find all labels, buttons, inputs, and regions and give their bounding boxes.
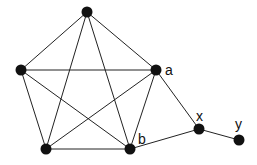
edge-x-y xyxy=(199,129,239,140)
edge-top-a xyxy=(87,12,156,70)
node-a xyxy=(151,65,162,76)
node-bottom-left xyxy=(41,144,52,155)
edge-top-b xyxy=(87,12,130,149)
graph-diagram: a b x y xyxy=(0,0,257,165)
node-b xyxy=(125,144,136,155)
node-top xyxy=(82,7,93,18)
edge-left-bottom-left xyxy=(21,70,46,149)
edge-a-x xyxy=(156,70,199,129)
edges xyxy=(21,12,239,149)
label-a: a xyxy=(165,62,173,78)
label-b: b xyxy=(138,131,146,147)
node-y xyxy=(234,135,245,146)
edge-top-bottom-left xyxy=(46,12,87,149)
node-left xyxy=(16,65,27,76)
edge-left-b xyxy=(21,70,130,149)
label-x: x xyxy=(196,108,203,124)
label-y: y xyxy=(235,116,242,132)
node-x xyxy=(194,124,205,135)
edge-top-left xyxy=(21,12,87,70)
